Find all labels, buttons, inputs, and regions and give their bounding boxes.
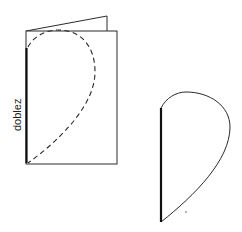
card-front-panel: [26, 31, 117, 164]
folded-card: [26, 16, 117, 164]
heart-fold-diagram: doblez: [0, 0, 242, 232]
half-heart-outline: [161, 92, 230, 222]
stray-dot: [185, 211, 187, 213]
cut-half-heart: [161, 92, 230, 222]
card-back-flap: [26, 16, 107, 31]
fold-label: doblez: [11, 99, 23, 131]
